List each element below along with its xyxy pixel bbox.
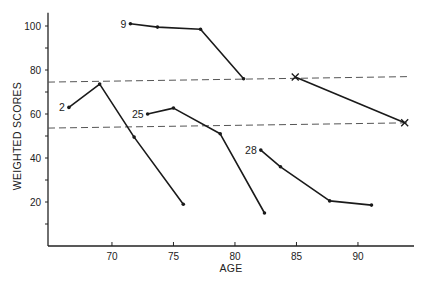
lower-dashed-line <box>48 123 410 128</box>
data-point <box>132 135 136 139</box>
y-tick-label: 20 <box>30 197 42 208</box>
data-point <box>279 165 283 169</box>
x-tick-label: 80 <box>229 251 241 262</box>
data-point <box>98 82 102 86</box>
data-point <box>199 28 203 32</box>
data-point <box>218 132 222 136</box>
y-tick-label: 40 <box>30 153 42 164</box>
y-tick-label: 100 <box>24 21 41 32</box>
series-X <box>292 74 408 127</box>
series-label: 25 <box>132 108 144 120</box>
series-28: 28 <box>245 144 373 207</box>
line-chart: 204060801007075808590 292528 AGE WEIGHTE… <box>0 0 426 282</box>
series-9: 9 <box>121 18 246 81</box>
x-tick-label: 75 <box>168 251 180 262</box>
x-tick-label: 90 <box>352 251 364 262</box>
data-point <box>156 25 160 29</box>
upper-dashed-line <box>48 77 410 83</box>
series-line <box>69 84 183 204</box>
x-marker-icon <box>292 74 299 81</box>
series-line <box>130 24 243 79</box>
data-point <box>182 202 186 206</box>
y-tick-label: 80 <box>30 65 42 76</box>
x-tick-label: 70 <box>106 251 118 262</box>
data-point <box>259 148 263 152</box>
series-line <box>148 108 265 213</box>
data-point <box>328 199 332 203</box>
series-line <box>295 77 405 123</box>
series-group: 292528 <box>59 18 408 215</box>
series-2: 2 <box>59 82 185 206</box>
x-tick-label: 85 <box>291 251 303 262</box>
data-point <box>67 106 71 110</box>
data-point <box>129 22 133 26</box>
series-line <box>261 150 372 205</box>
data-point <box>263 211 267 215</box>
data-point <box>370 203 374 207</box>
series-label: 28 <box>245 144 257 156</box>
data-point <box>242 77 246 81</box>
data-point <box>146 112 150 116</box>
y-axis-title: WEIGHTED SCORES <box>11 82 23 190</box>
y-tick-label: 60 <box>30 109 42 120</box>
series-label: 2 <box>59 101 65 113</box>
data-point <box>172 106 176 110</box>
series-label: 9 <box>121 18 127 30</box>
x-axis-title: AGE <box>219 262 242 274</box>
